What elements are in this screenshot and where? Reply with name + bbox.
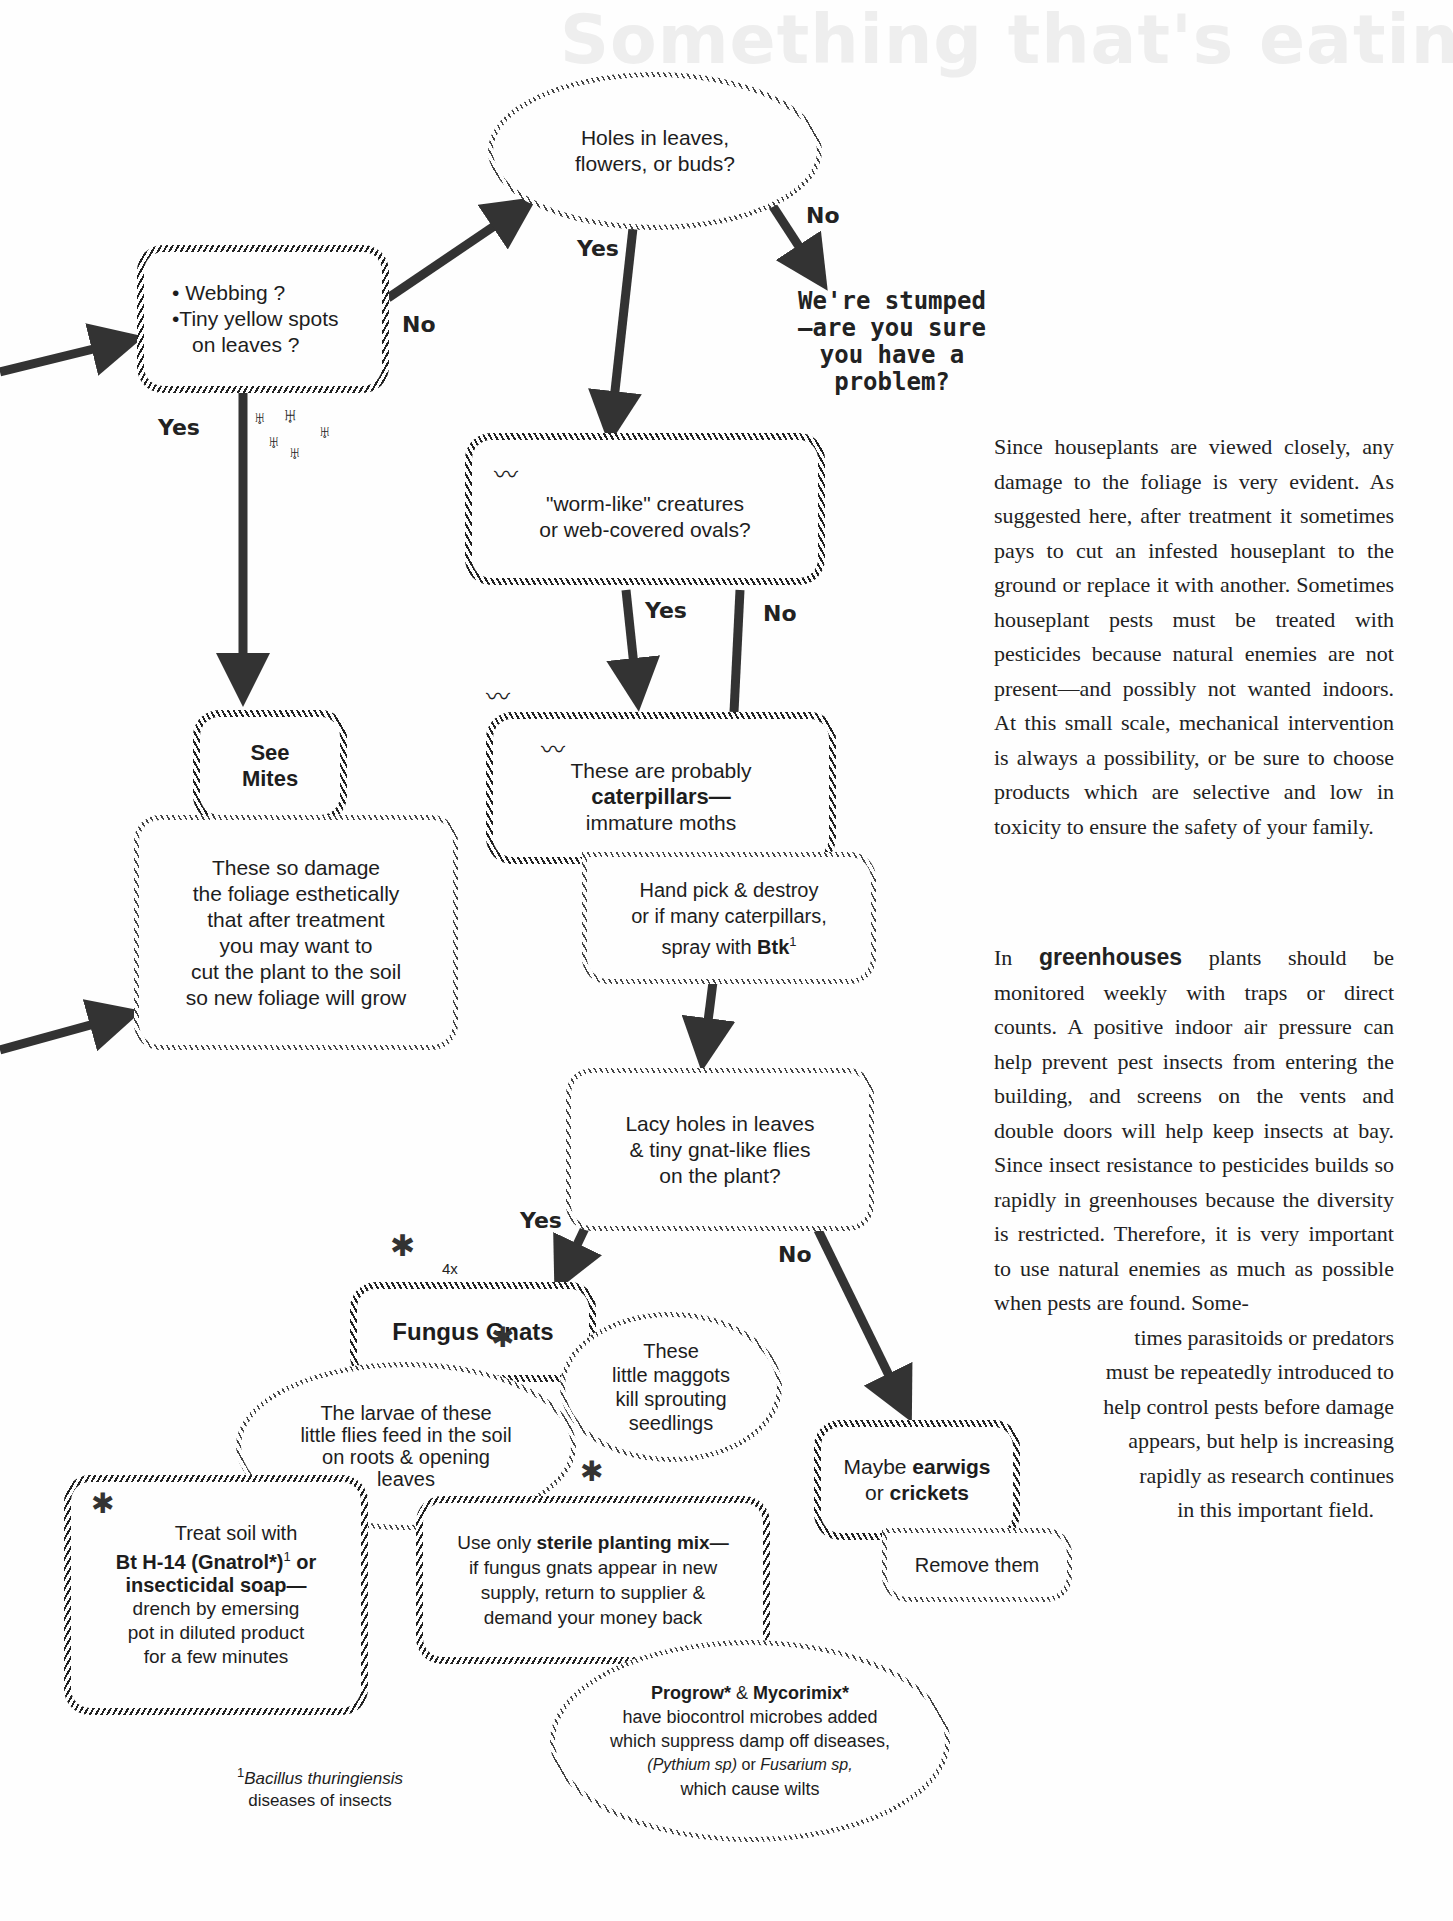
lacy-line-2: & tiny gnat-like flies — [630, 1137, 811, 1163]
edge-label-webbing-yes: Yes — [158, 415, 200, 440]
stumped-line-2: —are you sure — [772, 315, 1012, 342]
treat-line-2: Bt H-14 (Gnatrol*)1 or — [116, 1545, 317, 1574]
houseplants-text: Since houseplants are viewed closely, an… — [994, 430, 1394, 844]
lacy-holes-question-node: Lacy holes in leaves & tiny gnat-like fl… — [566, 1068, 874, 1231]
mites-note-line: cut the plant to the soil — [191, 959, 401, 985]
stumped-line-4: problem? — [772, 369, 1012, 396]
fungus-gnats-title: Fungus Gnats — [392, 1319, 553, 1345]
edge-label-holes-no: No — [806, 203, 840, 228]
sterile-line-4: demand your money back — [484, 1605, 703, 1630]
greenhouses-text: In greenhouses plants should be monitore… — [994, 940, 1394, 1321]
maggots-line: little maggots — [612, 1363, 730, 1387]
footnote: 1Bacillus thuringiensis diseases of inse… — [210, 1762, 430, 1812]
edge-label-lacy-no: No — [778, 1242, 812, 1267]
mite-icon: ♅ — [288, 443, 302, 464]
larvae-line: The larvae of these — [320, 1402, 491, 1424]
caterpillar-treatment-node: Hand pick & destroy or if many caterpill… — [582, 852, 876, 984]
treat-line-5: pot in diluted product — [128, 1621, 304, 1645]
sterile-line-2: if fungus gnats appear in new — [469, 1555, 717, 1580]
caterpillar-icon: 〰 — [486, 677, 510, 712]
gnat-icon: ✱ — [580, 1455, 603, 1488]
mites-note-line: that after treatment — [207, 907, 384, 933]
treat-line-1: Treat soil with — [175, 1521, 298, 1545]
footnote-line-2: diseases of insects — [210, 1790, 430, 1812]
maggots-line: kill sprouting — [615, 1387, 726, 1411]
maggots-line: These — [643, 1339, 699, 1363]
gnat-icon: ✱ — [390, 1228, 415, 1263]
progrow-line-3: which suppress damp off diseases, — [610, 1729, 890, 1753]
mites-note-node: These so damage the foliage esthetically… — [134, 815, 458, 1050]
earwigs-line-2: or crickets — [865, 1480, 969, 1506]
caterpillars-line-3: immature moths — [586, 810, 737, 836]
remove-them-text: Remove them — [915, 1552, 1040, 1578]
mite-icon: ♅ — [282, 403, 299, 429]
maggots-line: seedlings — [629, 1411, 714, 1435]
footnote-line-1: 1Bacillus thuringiensis — [210, 1762, 430, 1790]
arrow-into-mites-note — [0, 1018, 116, 1050]
mites-note-line: the foliage esthetically — [193, 881, 400, 907]
progrow-line-5: which cause wilts — [680, 1777, 819, 1801]
holes-question-node: Holes in leaves, flowers, or buds? — [488, 72, 822, 230]
earwigs-line-1: Maybe earwigs — [843, 1454, 990, 1480]
caterpillars-line-2: caterpillars— — [591, 784, 730, 810]
caterpillars-line-1: These are probably — [571, 758, 752, 784]
larvae-line: leaves — [377, 1468, 435, 1490]
arrow-into-webbing — [0, 343, 118, 372]
greenhouses-keyword: greenhouses — [1039, 944, 1182, 970]
gnat-icon: ✱ — [491, 1325, 514, 1351]
maggots-note-node: These little maggots kill sprouting seed… — [560, 1312, 782, 1462]
progrow-line-2: have biocontrol microbes added — [622, 1705, 877, 1729]
mite-icon: ♅ — [267, 432, 281, 453]
stumped-outcome: We're stumped —are you sure you have a p… — [772, 288, 1012, 396]
edge-label-lacy-yes: Yes — [520, 1208, 562, 1233]
worm-question-node: 〰 "worm-like" creatures or web-covered o… — [465, 433, 825, 585]
treat-line-4: drench by emersing — [133, 1597, 300, 1621]
treat-line-6: for a few minutes — [144, 1645, 289, 1669]
prose-tail-line: appears, but help is increasing — [994, 1424, 1394, 1459]
lacy-line-3: on the plant? — [659, 1163, 780, 1189]
houseplants-paragraph: Since houseplants are viewed closely, an… — [994, 430, 1394, 844]
progrow-line-4: (Pythium sp) or Fusarium sp, — [647, 1753, 852, 1777]
larvae-line: little flies feed in the soil — [300, 1424, 511, 1446]
mites-note-line: so new foliage will grow — [186, 985, 407, 1011]
stumped-line-3: you have a — [772, 342, 1012, 369]
webbing-question-node: • Webbing ? •Tiny yellow spots on leaves… — [137, 245, 389, 393]
caterpillar-icon: 〰 — [541, 737, 565, 763]
treat-line-3: insecticidal soap— — [125, 1573, 306, 1597]
see-mites-line-1: See — [250, 740, 289, 766]
see-mites-node: See Mites — [193, 710, 347, 822]
treatment-line-3: spray with Btk1 — [661, 929, 796, 960]
on-leaves-line: on leaves ? — [192, 332, 299, 358]
sterile-mix-node: Use only sterile planting mix— if fungus… — [416, 1496, 770, 1664]
mites-note-line: you may want to — [220, 933, 373, 959]
earwigs-node: Maybe earwigs or crickets — [814, 1420, 1020, 1540]
see-mites-line-2: Mites — [242, 766, 298, 792]
treat-soil-node: ✱ Treat soil with Bt H-14 (Gnatrol*)1 or… — [64, 1475, 368, 1715]
mite-icon: ♅ — [318, 422, 332, 443]
prose-tail-line: help control pests before damage — [994, 1390, 1394, 1425]
gnat-icon: ✱ — [91, 1492, 114, 1516]
worm-icon: 〰 — [494, 462, 518, 488]
stumped-line-1: We're stumped — [772, 288, 1012, 315]
yellow-spots-line: •Tiny yellow spots — [172, 306, 338, 332]
greenhouses-paragraph: In greenhouses plants should be monitore… — [994, 940, 1394, 1528]
holes-line-2: flowers, or buds? — [575, 151, 735, 177]
holes-line-1: Holes in leaves, — [581, 125, 729, 151]
mites-note-line: These so damage — [212, 855, 380, 881]
prose-tail-line: in this important field. — [994, 1493, 1394, 1528]
magnification-label: 4x — [442, 1260, 458, 1277]
progrow-note-node: Progrow* & Mycorimix* have biocontrol mi… — [550, 1640, 950, 1842]
edge-label-worm-no: No — [763, 601, 797, 626]
prose-tail-line: times parasitoids or predators — [994, 1321, 1394, 1356]
sterile-line-1: Use only sterile planting mix— — [457, 1530, 728, 1555]
worm-line-1: "worm-like" creatures — [546, 491, 744, 517]
webbing-line: • Webbing ? — [172, 280, 285, 306]
treatment-line-1: Hand pick & destroy — [640, 877, 819, 903]
treatment-line-2: or if many caterpillars, — [631, 903, 827, 929]
prose-tail-line: rapidly as research continues — [994, 1459, 1394, 1494]
sterile-line-3: supply, return to supplier & — [481, 1580, 706, 1605]
edge-label-holes-yes: Yes — [577, 236, 619, 261]
progrow-line-1: Progrow* & Mycorimix* — [651, 1681, 849, 1705]
prose-tail-line: must be repeatedly introduced to — [994, 1355, 1394, 1390]
edge-label-webbing-no: No — [402, 312, 436, 337]
